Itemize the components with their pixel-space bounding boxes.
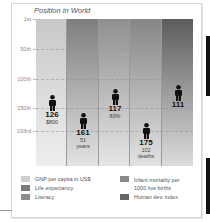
legend-item-human-dev-index: Human dev. index	[120, 194, 180, 203]
marker-infant-mortality: 175 102 deaths	[131, 123, 161, 159]
rank-value: 175	[131, 139, 161, 147]
legend-item-life-expectancy: Life expectancy	[21, 185, 91, 194]
legend-left: GNP per capita in US$ Life expectancy Li…	[21, 176, 91, 203]
legend-label: GNP per capita in US$	[35, 176, 91, 182]
y-tick-label: 193rd	[0, 128, 31, 134]
person-icon	[142, 123, 151, 139]
rank-value: 126	[37, 111, 67, 119]
gridline	[36, 79, 193, 80]
legend-swatch	[21, 194, 30, 200]
legend-label: Life expectancy	[35, 185, 73, 191]
gridline	[36, 49, 193, 50]
marker-gnp: 126 $800	[37, 95, 67, 125]
legend-label: Human dev. index	[134, 194, 178, 200]
y-tick-label: 50th	[0, 46, 31, 52]
page-edge-bar	[206, 158, 210, 214]
legend-item-gnp: GNP per capita in US$	[21, 176, 91, 185]
person-icon	[174, 85, 183, 101]
page-edge-bar	[206, 36, 210, 96]
marker-literacy: 117 83%	[100, 89, 130, 119]
legend-item-infant-mortality: Infant mortality per1000 live births	[120, 176, 180, 194]
legend-swatch	[120, 176, 129, 182]
y-tick-label: 150th	[0, 105, 31, 111]
rank-value: 111	[163, 101, 193, 109]
legend-swatch	[21, 176, 30, 182]
value-detail: $800	[37, 119, 67, 125]
value-detail-unit: years	[68, 143, 98, 149]
column-gnp	[36, 19, 67, 166]
legend-label: Infant mortality per1000 live births	[134, 176, 180, 192]
legend-label: Literacy	[35, 194, 54, 200]
y-tick-label: 100th	[0, 76, 31, 82]
rank-value: 161	[68, 129, 98, 137]
plot-area: 126 $800 161 51 years 117 83% 175 102 de…	[36, 19, 193, 166]
chart-title: Position in World	[34, 6, 90, 15]
marker-life-expectancy: 161 51 years	[68, 113, 98, 149]
value-detail-unit: deaths	[131, 153, 161, 159]
marker-human-dev-index: 111	[163, 85, 193, 109]
value-detail: 83%	[100, 113, 130, 119]
legend-label-line2: 1000 live births	[134, 185, 171, 191]
legend-label-line1: Infant mortality per	[134, 177, 180, 183]
legend-swatch	[120, 194, 129, 200]
person-icon	[79, 113, 88, 129]
legend-swatch	[21, 185, 30, 191]
gridline	[36, 131, 193, 132]
legend-item-literacy: Literacy	[21, 194, 91, 203]
y-tick-label: 1st	[0, 16, 31, 22]
legend-right: Infant mortality per1000 live births Hum…	[120, 176, 180, 203]
divider	[0, 210, 12, 211]
rank-value: 117	[100, 105, 130, 113]
person-icon	[111, 89, 120, 105]
person-icon	[48, 95, 57, 111]
